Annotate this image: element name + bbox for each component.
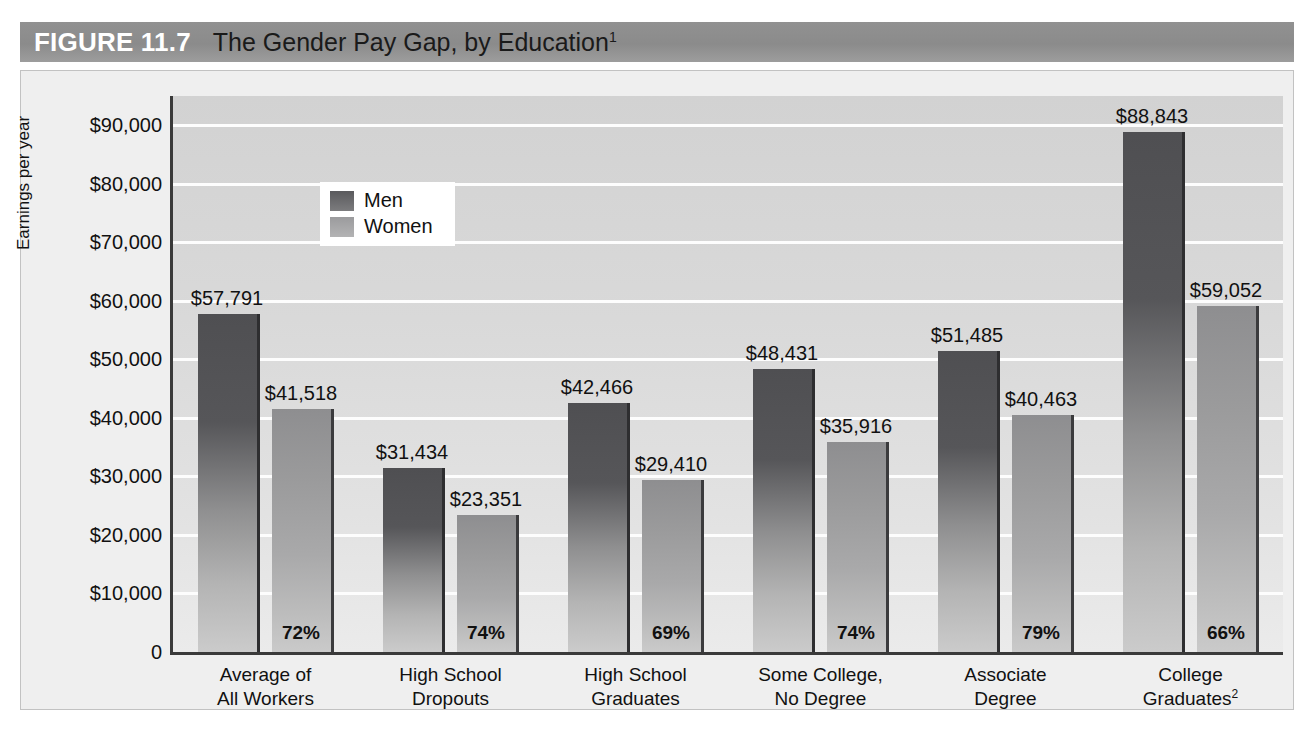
figure-title: The Gender Pay Gap, by Education1 <box>213 28 617 57</box>
bar-women: $23,35174% <box>457 515 519 652</box>
y-axis-tick-label: $80,000 <box>90 172 162 195</box>
bar-women: $29,41069% <box>642 480 704 652</box>
x-axis-category-label-line: Graduates2 <box>1143 687 1238 712</box>
x-axis-category-label: CollegeGraduates2 <box>1143 663 1238 712</box>
gridline <box>173 475 1283 478</box>
x-axis-category-label-line: Average of <box>217 663 314 687</box>
y-axis-tick-label: $30,000 <box>90 465 162 488</box>
bar-men: $42,466 <box>568 403 630 652</box>
bar-ratio-label: 79% <box>1022 622 1060 644</box>
x-axis-category-label-line: All Workers <box>217 687 314 711</box>
bar-value-label: $59,052 <box>1190 279 1262 302</box>
figure-title-superscript: 1 <box>609 28 617 44</box>
bar-value-label: $29,410 <box>635 453 707 476</box>
x-axis-category-label-line: High School <box>584 663 686 687</box>
bar-men: $51,485 <box>938 351 1000 652</box>
x-axis-category-label-line: High School <box>399 663 501 687</box>
bar-value-label: $31,434 <box>376 441 448 464</box>
legend-item-men: Men <box>330 189 433 212</box>
bar-ratio-label: 66% <box>1207 622 1245 644</box>
x-axis-category-superscript: 2 <box>1232 687 1239 701</box>
figure-title-text: The Gender Pay Gap, by Education <box>213 28 609 56</box>
bar-men: $31,434 <box>383 468 445 652</box>
chart-legend: Men Women <box>320 182 455 246</box>
x-axis-category-label: High SchoolGraduates <box>584 663 686 712</box>
gridline <box>173 534 1283 537</box>
y-axis-tick-label: $60,000 <box>90 289 162 312</box>
bar-value-label: $35,916 <box>820 415 892 438</box>
bar-women: $59,05266% <box>1197 306 1259 652</box>
y-axis-tick-label: $70,000 <box>90 231 162 254</box>
x-axis-category-label: High SchoolDropouts <box>399 663 501 712</box>
x-axis-category-label-line: Degree <box>964 687 1046 711</box>
gridline <box>173 592 1283 595</box>
figure-number: FIGURE 11.7 <box>34 27 191 58</box>
y-axis-tick-label: $50,000 <box>90 348 162 371</box>
y-axis-tick-label: 0 <box>151 641 162 664</box>
y-axis-tick-label: $90,000 <box>90 114 162 137</box>
bar-ratio-label: 74% <box>837 622 875 644</box>
y-axis-tick-labels: 0$10,000$20,000$30,000$40,000$50,000$60,… <box>46 96 162 652</box>
x-axis-category-label-line: Dropouts <box>399 687 501 711</box>
bar-value-label: $40,463 <box>1005 388 1077 411</box>
legend-swatch-women-icon <box>330 217 354 237</box>
y-axis-tick-label: $40,000 <box>90 406 162 429</box>
bar-ratio-label: 72% <box>282 622 320 644</box>
x-axis-category-label-line: College <box>1143 663 1238 687</box>
bar-ratio-label: 74% <box>467 622 505 644</box>
figure-container: FIGURE 11.7 The Gender Pay Gap, by Educa… <box>0 0 1314 748</box>
legend-swatch-men-icon <box>330 191 354 211</box>
y-axis-tick-label: $10,000 <box>90 582 162 605</box>
bar-men: $88,843 <box>1123 132 1185 652</box>
bar-value-label: $48,431 <box>746 342 818 365</box>
x-axis-category-label-line: No Degree <box>758 687 883 711</box>
x-axis-category-labels: Average ofAll WorkersHigh SchoolDropouts… <box>173 663 1283 723</box>
figure-header-band: FIGURE 11.7 The Gender Pay Gap, by Educa… <box>20 22 1294 62</box>
bar-value-label: $42,466 <box>561 376 633 399</box>
legend-label-men: Men <box>364 189 403 212</box>
bar-value-label: $88,843 <box>1116 105 1188 128</box>
bar-men: $48,431 <box>753 369 815 652</box>
y-axis-tick-label: $20,000 <box>90 523 162 546</box>
x-axis-category-label-line: Some College, <box>758 663 883 687</box>
gridline <box>173 358 1283 361</box>
bar-value-label: $41,518 <box>265 382 337 405</box>
x-axis-category-label-line: Associate <box>964 663 1046 687</box>
gridline <box>173 417 1283 420</box>
bar-value-label: $23,351 <box>450 488 522 511</box>
x-axis-category-label-line: Graduates <box>584 687 686 711</box>
plot-area: $57,791$41,51872%$31,434$23,35174%$42,46… <box>170 96 1283 655</box>
gridline <box>173 300 1283 303</box>
legend-label-women: Women <box>364 215 433 238</box>
y-axis-title: Earnings per year <box>14 116 34 250</box>
bar-value-label: $51,485 <box>931 324 1003 347</box>
x-axis-category-label: Average ofAll Workers <box>217 663 314 712</box>
bar-women: $41,51872% <box>272 409 334 652</box>
legend-item-women: Women <box>330 215 433 238</box>
bar-women: $40,46379% <box>1012 415 1074 652</box>
bar-ratio-label: 69% <box>652 622 690 644</box>
bar-men: $57,791 <box>198 314 260 652</box>
bar-women: $35,91674% <box>827 442 889 652</box>
x-axis-category-label: AssociateDegree <box>964 663 1046 712</box>
bar-value-label: $57,791 <box>191 287 263 310</box>
x-axis-category-label: Some College,No Degree <box>758 663 883 712</box>
